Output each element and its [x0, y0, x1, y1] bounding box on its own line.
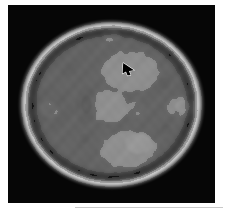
caption-separator-rule: [75, 207, 223, 208]
page-margin-top: [0, 0, 227, 5]
mri-scan-panel: [8, 5, 215, 203]
page-margin-bottom: [0, 203, 227, 213]
figure-page: [0, 0, 227, 213]
page-margin-right: [215, 0, 227, 213]
page-margin-left: [0, 0, 8, 213]
mri-slice-image: [8, 5, 215, 203]
